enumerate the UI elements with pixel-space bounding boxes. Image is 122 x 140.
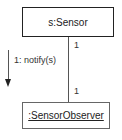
message-arrow-shaft <box>8 50 9 80</box>
arrow-down-icon <box>5 79 11 87</box>
observer-object-box: :SensorObserver <box>22 102 110 129</box>
association-link <box>68 37 69 102</box>
message-label: 1: notify(s) <box>14 55 56 65</box>
sensor-object-label: s:Sensor <box>48 17 87 28</box>
observer-object-label: :SensorObserver <box>28 110 104 121</box>
multiplicity-top: 1 <box>74 40 79 50</box>
sensor-object-box: s:Sensor <box>22 7 114 37</box>
multiplicity-bottom: 1 <box>74 86 79 96</box>
